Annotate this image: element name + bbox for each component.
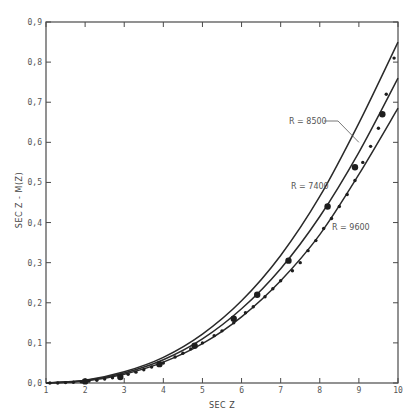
y-tick-label: 0,1 (28, 339, 43, 348)
data-point (48, 381, 51, 384)
data-point (142, 368, 145, 371)
data-point (279, 279, 282, 282)
data-point (252, 305, 255, 308)
x-tick-label: 8 (317, 386, 322, 395)
y-tick-label: 0,5 (28, 178, 43, 187)
data-point (345, 193, 348, 196)
y-tick-label: 0,0 (28, 379, 43, 388)
x-tick-label: 1 (44, 386, 49, 395)
data-point (191, 342, 197, 348)
data-point (392, 56, 395, 59)
data-point (291, 269, 294, 272)
data-point (299, 261, 302, 264)
data-point (352, 164, 358, 170)
label-r-9600: R = 9600 (332, 223, 370, 232)
x-tick-label: 7 (278, 386, 283, 395)
x-tick-label: 3 (122, 386, 127, 395)
data-point (72, 380, 75, 383)
leader-line (324, 121, 359, 142)
data-point (379, 111, 385, 117)
data-point (189, 347, 192, 350)
y-tick-label: 0,7 (28, 98, 43, 107)
data-point (324, 203, 330, 209)
data-point (231, 316, 237, 322)
data-point (314, 239, 317, 242)
data-point (254, 292, 260, 298)
data-point (156, 361, 162, 367)
data-point (103, 377, 106, 380)
observed-points (48, 56, 396, 384)
chart: 0,00,10,20,30,40,50,60,70,80,9 123456789… (0, 0, 417, 416)
x-tick-label: 6 (239, 386, 244, 395)
data-point (181, 352, 184, 355)
data-point (111, 376, 114, 379)
data-point (263, 295, 266, 298)
data-point (353, 179, 356, 182)
y-tick-label: 0,3 (28, 259, 43, 268)
x-tick-label: 5 (200, 386, 205, 395)
x-tick-label: 9 (356, 386, 361, 395)
curve-labels: R = 8500R = 7400R = 9600 (289, 117, 370, 232)
data-point (322, 227, 325, 230)
x-axis-ticks: 12345678910 (44, 22, 403, 395)
data-point (82, 378, 88, 384)
data-point (369, 145, 372, 148)
y-tick-label: 0,9 (28, 18, 43, 27)
data-point (150, 365, 153, 368)
data-point (285, 257, 291, 263)
label-r-7400: R = 7400 (291, 182, 329, 191)
data-point (134, 370, 137, 373)
data-point (330, 217, 333, 220)
data-point (117, 374, 123, 380)
data-point (95, 378, 98, 381)
y-axis-title: SEC Z - M(Z) (15, 172, 24, 228)
y-tick-label: 0,2 (28, 299, 43, 308)
data-point (385, 93, 388, 96)
data-point (244, 311, 247, 314)
x-tick-label: 10 (393, 386, 403, 395)
data-point (361, 161, 364, 164)
data-point (56, 381, 59, 384)
x-tick-label: 4 (161, 386, 166, 395)
data-point (64, 381, 67, 384)
plot-frame (46, 22, 398, 383)
y-tick-label: 0,8 (28, 58, 43, 67)
label-r-8500: R = 8500 (289, 117, 327, 126)
data-point (271, 287, 274, 290)
data-point (306, 249, 309, 252)
data-point (212, 334, 215, 337)
data-point (338, 205, 341, 208)
data-point (201, 341, 204, 344)
y-tick-label: 0,6 (28, 138, 43, 147)
data-point (377, 127, 380, 130)
data-point (220, 329, 223, 332)
data-point (173, 355, 176, 358)
data-point (126, 372, 129, 375)
x-tick-label: 2 (83, 386, 88, 395)
x-axis-title: SEC Z (209, 401, 235, 410)
y-tick-label: 0,4 (28, 219, 43, 228)
